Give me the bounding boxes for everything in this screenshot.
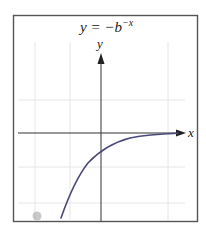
- chart-title-exponent: −x: [122, 17, 134, 28]
- chart-figure: x y y = −b−x: [0, 0, 206, 231]
- scan-smudge: [33, 212, 42, 221]
- chart-title-base: y = −b: [78, 19, 122, 35]
- y-axis-label: y: [95, 36, 103, 51]
- chart-frame: [14, 16, 198, 222]
- x-axis-label: x: [187, 125, 194, 140]
